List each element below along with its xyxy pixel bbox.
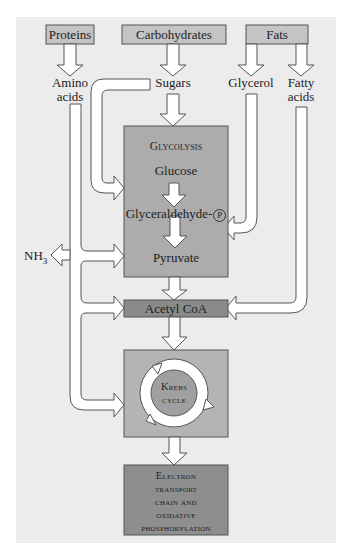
etc-label-line5: phosphorylation xyxy=(124,521,228,535)
carbohydrates-label: Carbohydrates xyxy=(122,28,226,41)
glycerol-label: Glycerol xyxy=(226,76,276,89)
nh3-subscript: 3 xyxy=(43,256,48,266)
pyruvate-label: Pyruvate xyxy=(124,251,228,264)
glyceraldehyde-text: Glyceraldehyde- xyxy=(126,206,213,221)
amino-acids-label-line1: Amino xyxy=(50,76,90,89)
amino-acids-label-line2: acids xyxy=(50,90,90,103)
acetyl-coa-label: Acetyl CoA xyxy=(124,302,228,315)
etc-label-line4: oxidative xyxy=(124,508,228,522)
proteins-label: Proteins xyxy=(46,28,94,41)
krebs-label-line2: cycle xyxy=(150,393,198,407)
glyceraldehyde-label: Glyceraldehyde-P xyxy=(124,207,228,222)
glycolysis-title: Glycolysis xyxy=(124,140,228,153)
etc-label-line2: transport xyxy=(124,482,228,496)
fatty-acids-label-line1: Fatty xyxy=(281,76,321,89)
nh3-text: NH xyxy=(24,248,43,263)
fats-label: Fats xyxy=(246,28,308,41)
phosphate-icon: P xyxy=(213,209,226,222)
fatty-acids-label-line2: acids xyxy=(281,90,321,103)
krebs-label-line1: Krebs xyxy=(150,380,198,394)
nh3-label: NH3 xyxy=(24,249,47,268)
etc-label-line3: chain and xyxy=(124,495,228,509)
glucose-label: Glucose xyxy=(124,164,228,177)
etc-label-line1: Electron xyxy=(124,469,228,483)
sugars-label: Sugars xyxy=(153,76,193,89)
